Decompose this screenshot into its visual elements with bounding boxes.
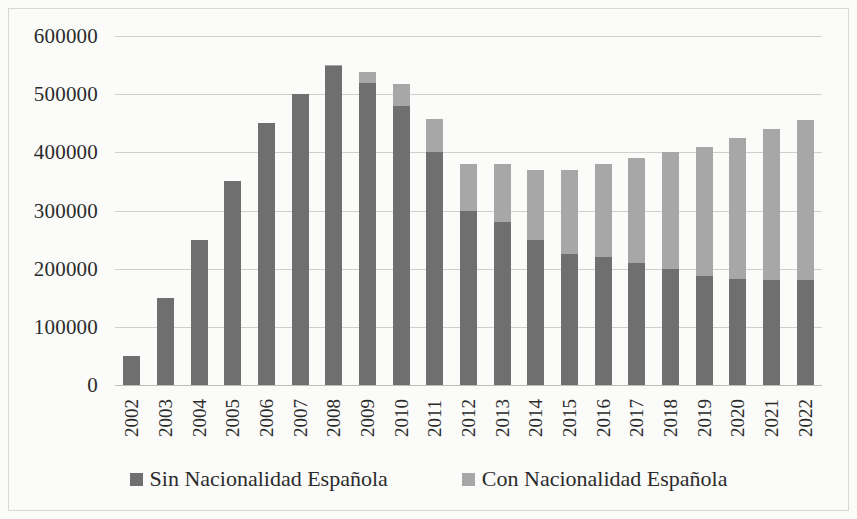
bar-segment[interactable] [258,123,275,385]
bar-segment[interactable] [426,152,443,385]
y-tick-label: 600000 [34,26,98,47]
x-tick-label: 2015 [561,420,578,437]
bar-group[interactable] [460,164,477,385]
chart-legend: Sin Nacionalidad EspañolaCon Nacionalida… [0,468,857,490]
gridline-0 [115,385,822,386]
x-axis: 2002200320042005200620072008200920102011… [115,390,822,460]
bar-segment[interactable] [359,72,376,82]
x-tick-label: 2014 [527,420,544,437]
bar-segment[interactable] [157,298,174,385]
legend-item[interactable]: Con Nacionalidad Española [462,468,728,490]
x-tick-label: 2010 [393,420,410,437]
bar-segment[interactable] [763,280,780,385]
bar-segment[interactable] [460,164,477,211]
bar-group[interactable] [224,181,241,385]
x-tick-label: 2019 [696,420,713,437]
bar-segment[interactable] [527,240,544,385]
bar-segment[interactable] [123,356,140,385]
x-tick-label: 2017 [628,420,645,437]
x-tick-label: 2012 [460,420,477,437]
bar-group[interactable] [696,147,713,385]
bar-segment[interactable] [729,138,746,279]
legend-label: Sin Nacionalidad Española [150,468,388,490]
x-tick-label: 2018 [662,420,679,437]
x-tick-label: 2006 [258,420,275,437]
bar-segment[interactable] [595,164,612,257]
x-tick-label: 2013 [494,420,511,437]
legend-label: Con Nacionalidad Española [482,468,728,490]
bar-segment[interactable] [325,66,342,385]
x-tick-label: 2011 [426,420,443,437]
bar-segment[interactable] [595,257,612,385]
bar-segment[interactable] [393,84,410,106]
bar-group[interactable] [595,164,612,385]
bar-segment[interactable] [628,158,645,263]
bar-segment[interactable] [696,276,713,385]
bar-segment[interactable] [494,222,511,385]
bar-segment[interactable] [359,83,376,385]
bar-segment[interactable] [797,280,814,385]
y-tick-label: 400000 [34,142,98,163]
x-tick-label: 2005 [224,420,241,437]
bar-segment[interactable] [662,152,679,268]
x-tick-label: 2003 [157,420,174,437]
bar-group[interactable] [426,119,443,385]
x-tick-label: 2020 [729,420,746,437]
bar-group[interactable] [729,138,746,385]
legend-swatch-sin-nacionalidad [130,473,143,486]
x-tick-label: 2016 [595,420,612,437]
y-tick-label: 300000 [34,200,98,221]
x-tick-label: 2022 [797,420,814,437]
bar-segment[interactable] [662,269,679,385]
stacked-bar-chart: 0100000200000300000400000500000600000 20… [0,0,857,519]
legend-item[interactable]: Sin Nacionalidad Española [130,468,388,490]
y-tick-label: 500000 [34,84,98,105]
bar-group[interactable] [494,164,511,385]
gridline-600000 [115,36,822,37]
bar-group[interactable] [763,129,780,385]
bar-group[interactable] [393,84,410,385]
x-tick-label: 2004 [191,420,208,437]
bar-group[interactable] [325,65,342,385]
x-tick-label: 2008 [325,420,342,437]
bar-segment[interactable] [224,181,241,385]
bar-segment[interactable] [191,240,208,385]
y-axis: 0100000200000300000400000500000600000 [0,36,108,385]
bar-group[interactable] [662,152,679,385]
bar-segment[interactable] [729,279,746,385]
bar-segment[interactable] [393,106,410,385]
bar-group[interactable] [191,240,208,385]
bar-segment[interactable] [628,263,645,385]
bar-group[interactable] [628,158,645,385]
bar-segment[interactable] [527,170,544,240]
bar-group[interactable] [292,94,309,385]
bar-segment[interactable] [797,120,814,280]
plot-area [115,36,822,385]
y-tick-label: 0 [87,375,98,396]
gridline-500000 [115,94,822,95]
bar-group[interactable] [258,123,275,385]
bar-segment[interactable] [763,129,780,280]
y-tick-label: 200000 [34,258,98,279]
bar-segment[interactable] [696,147,713,276]
bar-segment[interactable] [561,170,578,254]
bar-segment[interactable] [561,254,578,385]
x-tick-label: 2007 [292,420,309,437]
legend-swatch-con-nacionalidad [462,473,475,486]
gridline-400000 [115,152,822,153]
bar-group[interactable] [123,356,140,385]
bar-group[interactable] [527,170,544,385]
bar-segment[interactable] [494,164,511,222]
x-tick-label: 2002 [123,420,140,437]
bar-group[interactable] [561,170,578,385]
bar-group[interactable] [359,72,376,385]
y-tick-label: 100000 [34,316,98,337]
x-tick-label: 2009 [359,420,376,437]
bar-group[interactable] [157,298,174,385]
x-tick-label: 2021 [763,420,780,437]
bar-segment[interactable] [426,119,443,153]
bar-segment[interactable] [460,211,477,386]
bar-segment[interactable] [292,94,309,385]
bar-group[interactable] [797,120,814,385]
